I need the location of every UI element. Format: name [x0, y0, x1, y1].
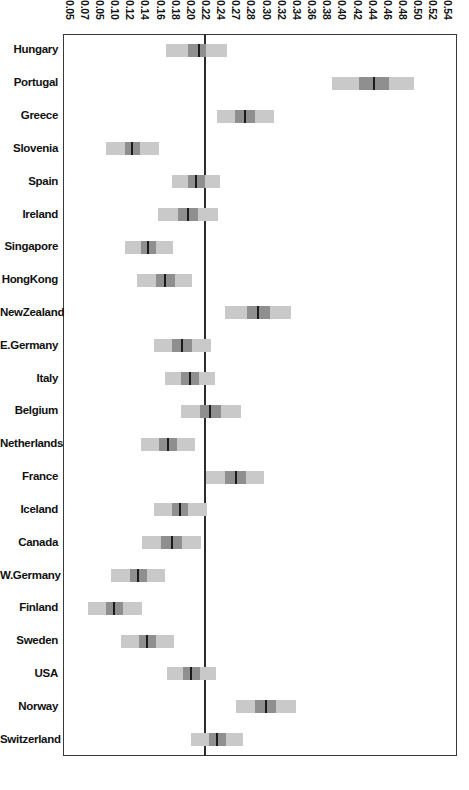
x-tick-label: 0.42	[352, 0, 364, 34]
x-tick-label: 0.22	[200, 0, 212, 34]
interval-bar	[0, 77, 469, 90]
interval-bar	[0, 635, 469, 648]
point-estimate-marker	[147, 241, 149, 254]
point-estimate-marker	[171, 536, 173, 549]
interval-bar	[0, 503, 469, 516]
point-estimate-marker	[216, 733, 218, 746]
interval-bar	[0, 700, 469, 713]
x-tick-label: 0.05	[94, 0, 106, 34]
interval-bar	[0, 471, 469, 484]
x-tick-label: 0.20	[185, 0, 197, 34]
x-tick-label: 0.50	[412, 0, 424, 34]
interval-bar	[0, 274, 469, 287]
x-tick-label: 0.24	[215, 0, 227, 34]
x-tick-label: 0.38	[321, 0, 333, 34]
x-tick-label: 0.14	[139, 0, 151, 34]
interval-bar	[0, 405, 469, 418]
interval-bar	[0, 372, 469, 385]
point-estimate-marker	[181, 339, 183, 352]
point-estimate-marker	[198, 44, 200, 57]
point-estimate-marker	[179, 503, 181, 516]
interval-bar	[0, 241, 469, 254]
point-estimate-marker	[189, 372, 191, 385]
point-estimate-marker	[131, 142, 133, 155]
point-estimate-marker	[235, 471, 237, 484]
interval-bar	[0, 602, 469, 615]
forest-plot-chart: 0.050.070.050.100.120.140.160.180.200.22…	[0, 0, 469, 790]
interval-bar	[0, 175, 469, 188]
point-estimate-marker	[190, 667, 192, 680]
x-tick-label: 0.48	[397, 0, 409, 34]
x-tick-label: 0.18	[170, 0, 182, 34]
point-estimate-marker	[257, 306, 259, 319]
x-tick-label: 0.12	[124, 0, 136, 34]
x-tick-label: 0.05	[64, 0, 76, 34]
x-tick-label: 0.54	[442, 0, 454, 34]
point-estimate-marker	[187, 208, 189, 221]
x-tick-label: 0.32	[276, 0, 288, 34]
x-tick-label: 0.30	[261, 0, 273, 34]
point-estimate-marker	[137, 569, 139, 582]
interval-bar	[0, 569, 469, 582]
point-estimate-marker	[373, 77, 375, 90]
interval-bar	[0, 306, 469, 319]
x-tick-label: 0.36	[306, 0, 318, 34]
x-tick-label: 0.10	[109, 0, 121, 34]
interval-bar	[0, 667, 469, 680]
point-estimate-marker	[209, 405, 211, 418]
x-tick-label: 0.46	[382, 0, 394, 34]
x-tick-label: 0.16	[155, 0, 167, 34]
x-axis-tick-labels: 0.050.070.050.100.120.140.160.180.200.22…	[0, 0, 469, 34]
interval-bar	[0, 339, 469, 352]
interval-bar	[0, 110, 469, 123]
confidence-interval-inner	[188, 44, 206, 57]
point-estimate-marker	[146, 635, 148, 648]
point-estimate-marker	[244, 110, 246, 123]
interval-bar	[0, 44, 469, 57]
point-estimate-marker	[164, 274, 166, 287]
point-estimate-marker	[113, 602, 115, 615]
interval-bar	[0, 536, 469, 549]
x-tick-label: 0.40	[336, 0, 348, 34]
x-tick-label: 0.34	[291, 0, 303, 34]
interval-bar	[0, 142, 469, 155]
interval-bar	[0, 208, 469, 221]
point-estimate-marker	[195, 175, 197, 188]
x-tick-label: 0.07	[79, 0, 91, 34]
x-tick-label: 0.27	[230, 0, 242, 34]
x-tick-label: 0.28	[245, 0, 257, 34]
x-tick-label: 0.44	[367, 0, 379, 34]
point-estimate-marker	[265, 700, 267, 713]
interval-bar	[0, 733, 469, 746]
x-tick-label: 0.52	[427, 0, 439, 34]
point-estimate-marker	[167, 438, 169, 451]
interval-bar	[0, 438, 469, 451]
